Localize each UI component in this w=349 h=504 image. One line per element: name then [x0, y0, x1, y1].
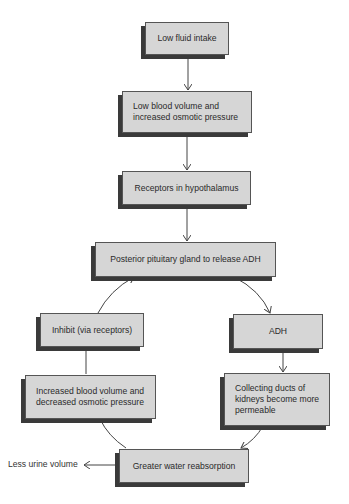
node-label: Posterior pituitary gland to release ADH — [110, 254, 260, 265]
node-label: Collecting ducts of kidneys become more … — [235, 383, 319, 416]
node-receptors-hypothalamus: Receptors in hypothalamus — [122, 171, 251, 205]
node-increased-blood-volume: Increased blood volume and decreased osm… — [25, 375, 156, 419]
node-greater-water-reabsorption: Greater water reabsorption — [119, 449, 249, 483]
node-label: Greater water reabsorption — [133, 461, 236, 472]
node-label: Inhibit (via receptors) — [52, 325, 132, 336]
edge-ducts-to-reabsorption — [241, 426, 263, 448]
node-label: Low fluid intake — [157, 33, 216, 44]
node-label: Receptors in hypothalamus — [134, 183, 238, 194]
node-low-blood-volume: Low blood volume and increased osmotic p… — [122, 91, 252, 133]
node-adh: ADH — [233, 314, 323, 349]
node-low-fluid-intake: Low fluid intake — [145, 22, 229, 55]
node-posterior-pituitary: Posterior pituitary gland to release ADH — [95, 242, 276, 277]
node-collecting-ducts: Collecting ducts of kidneys become more … — [224, 373, 330, 426]
edge-pituitary-to-adh — [234, 277, 270, 313]
edge-reabsorption-to-increased — [100, 419, 126, 448]
less-urine-volume-label: Less urine volume — [8, 459, 78, 469]
node-inhibit: Inhibit (via receptors) — [40, 313, 144, 347]
node-label: Increased blood volume and decreased osm… — [36, 386, 144, 408]
edge-inhibit-to-pituitary — [98, 277, 134, 313]
node-label: ADH — [269, 326, 287, 337]
node-label: Low blood volume and increased osmotic p… — [133, 101, 238, 123]
